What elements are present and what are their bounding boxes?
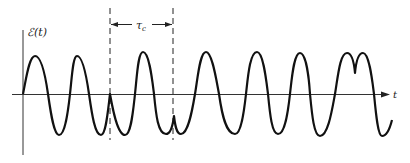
arrow-left-icon [111,22,118,27]
arrow-right-icon [165,22,172,27]
x-axis-arrow-icon [381,92,390,98]
y-axis-label: ℰ(t) [27,26,47,39]
coherence-time-marker: τc [111,19,172,33]
field-diagram: τc ℰ(t) t [0,0,410,163]
x-axis-label: t [393,89,398,100]
interval-label: τc [136,19,146,33]
